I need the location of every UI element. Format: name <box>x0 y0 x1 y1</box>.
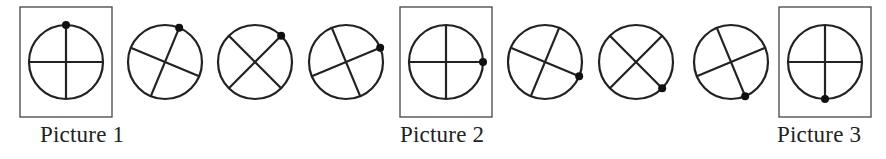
marker-dot-icon <box>376 44 384 52</box>
marker-dot-icon <box>62 21 70 29</box>
wheel-7 <box>599 25 673 99</box>
marker-dot-icon <box>277 32 285 40</box>
wheel-6 <box>508 25 583 99</box>
wheel-4 <box>309 25 384 99</box>
caption-picture-1: Picture 1 <box>40 122 124 148</box>
wheel-1 <box>20 7 112 117</box>
marker-dot-icon <box>821 95 829 103</box>
wheel-9 <box>779 7 871 117</box>
wheel-5 <box>400 7 492 117</box>
marker-dot-icon <box>575 72 583 80</box>
caption-picture-2: Picture 2 <box>400 122 484 148</box>
wheel-8 <box>694 25 768 100</box>
spoke-secondary <box>131 48 199 76</box>
caption-picture-3: Picture 3 <box>777 122 861 148</box>
rotating-wheel-diagram: Picture 1 Picture 2 Picture 3 <box>0 0 886 159</box>
wheel-3 <box>218 25 292 99</box>
marker-dot-icon <box>175 24 183 32</box>
wheel-2 <box>128 24 202 99</box>
spoke-secondary <box>697 48 765 76</box>
marker-dot-icon <box>741 92 749 100</box>
spoke-secondary <box>332 28 360 96</box>
marker-dot-icon <box>658 84 666 92</box>
spoke-secondary <box>531 28 559 96</box>
marker-dot-icon <box>479 58 487 66</box>
